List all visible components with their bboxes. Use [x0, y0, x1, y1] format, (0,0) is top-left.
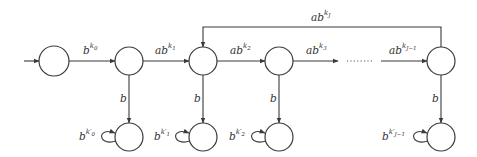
automaton-diagram: bk0 abk1 abk2 abk3 abkJ−1 abkJ b b b b b…	[0, 0, 477, 157]
self-loop-s0	[102, 132, 116, 143]
label-q1-q2: abk1	[155, 44, 176, 55]
state-q2	[189, 47, 217, 75]
self-loop-s2	[252, 132, 266, 143]
label-dots-qJ1: abkJ−1	[389, 44, 417, 55]
label-down-1: b	[120, 93, 127, 104]
sink-state-J-1	[427, 123, 455, 151]
label-down-J1: b	[432, 93, 439, 104]
state-qJ-1	[427, 47, 455, 75]
sink-state-0	[115, 123, 143, 151]
state-q0	[39, 46, 69, 76]
state-q3	[265, 47, 293, 75]
self-loop-s1	[176, 132, 190, 143]
label-loop-0: bk′0	[79, 130, 95, 141]
label-q3-dots: abk3	[306, 44, 327, 55]
label-loop-J1: bk′J−1	[382, 130, 405, 141]
label-down-2: b	[194, 93, 201, 104]
label-loop-1: bk′1	[154, 130, 170, 141]
label-q2-q3: abk2	[230, 44, 251, 55]
label-back-edge: abkJ	[311, 11, 330, 22]
state-q1	[115, 47, 143, 75]
label-down-3: b	[270, 93, 277, 104]
label-q0-q1: bk0	[83, 44, 97, 55]
self-loop-sJ1	[414, 132, 428, 143]
label-loop-2: bk′2	[229, 130, 245, 141]
sink-state-1	[189, 123, 217, 151]
sink-state-2	[265, 123, 293, 151]
